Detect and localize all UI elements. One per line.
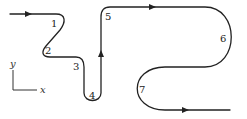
y-axis-label: y — [9, 58, 16, 69]
trajectory-diagram: 1 2 3 4 5 6 7 y x — [0, 0, 247, 119]
point-label-6: 6 — [220, 33, 226, 44]
point-label-7: 7 — [139, 84, 145, 95]
direction-arrow-4 — [182, 107, 189, 113]
point-label-1: 1 — [51, 18, 57, 29]
direction-arrow-3 — [149, 4, 156, 10]
axes-indicator — [13, 70, 37, 90]
diagram-canvas: 1 2 3 4 5 6 7 y x — [0, 0, 247, 119]
point-label-4: 4 — [89, 90, 95, 101]
point-label-2: 2 — [45, 45, 51, 56]
point-label-5: 5 — [105, 11, 111, 22]
point-label-3: 3 — [73, 61, 79, 72]
direction-arrow-2 — [98, 50, 104, 57]
x-axis-label: x — [40, 84, 46, 95]
direction-arrow-1 — [25, 11, 32, 17]
